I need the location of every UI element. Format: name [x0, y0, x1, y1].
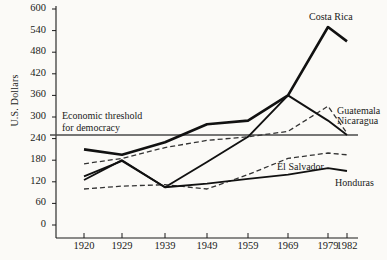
x-tick-label: 1920	[64, 240, 104, 251]
x-tick-label: 1959	[228, 240, 268, 251]
threshold-annotation: Economic thresholdfor democracy	[62, 110, 142, 133]
series-label-honduras: Honduras	[335, 177, 374, 188]
chart-figure: U.S. Dollars 060120180240300360420480540…	[0, 0, 387, 260]
threshold-note-line2: for democracy	[62, 122, 120, 133]
y-tick-label: 600	[12, 2, 46, 13]
x-tick-label: 1982	[327, 240, 367, 251]
series-label-nicaragua: Nicaragua	[337, 115, 378, 126]
threshold-note-line1: Economic threshold	[62, 110, 142, 121]
series-label-el-salvador: El Salvador	[277, 161, 324, 172]
y-tick-label: 300	[12, 110, 46, 121]
y-tick-label: 480	[12, 45, 46, 56]
y-tick-label: 420	[12, 67, 46, 78]
x-tick-label: 1969	[268, 240, 308, 251]
y-tick-label: 360	[12, 88, 46, 99]
x-tick-label: 1929	[102, 240, 142, 251]
x-tick-label: 1949	[187, 240, 227, 251]
y-tick-label: 540	[12, 24, 46, 35]
series-label-costa-rica: Costa Rica	[309, 11, 353, 22]
y-tick-label: 120	[12, 175, 46, 186]
x-tick-label: 1939	[145, 240, 185, 251]
y-tick-label: 180	[12, 153, 46, 164]
line-chart-plot	[0, 0, 387, 260]
y-tick-label: 0	[12, 218, 46, 229]
y-tick-label: 240	[12, 132, 46, 143]
y-tick-label: 60	[12, 196, 46, 207]
